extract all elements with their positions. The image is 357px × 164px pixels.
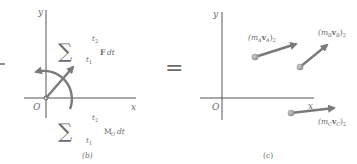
sigma-symbol-moment: ∑ <box>58 119 73 143</box>
impulse-momentum-diagram: y x O ∑ t 2 t 1 F dt ∑ t 2 t 1 M O dt (b… <box>0 0 357 164</box>
y-axis-label: y <box>212 9 219 19</box>
caption-b: (b) <box>82 151 93 160</box>
x-axis-label: x <box>131 102 136 112</box>
y-axis-label: y <box>37 7 44 17</box>
dt-label: dt <box>107 48 116 57</box>
origin-label: O <box>33 102 41 112</box>
momentum-arrow-b <box>300 45 327 67</box>
panel-c: y x O (mAvA)2 (mBvB)2 (mCvC)2 (c) <box>200 9 346 160</box>
upper-limit-sub: 2 <box>95 117 98 123</box>
upper-limit-sub: 2 <box>95 38 98 44</box>
origin-label: O <box>212 102 220 112</box>
momentum-label-c: (mCvC)2 <box>318 117 346 127</box>
equals-sign: = <box>165 55 183 80</box>
momentum-label-b: (mBvB)2 <box>318 28 346 38</box>
sigma-symbol-force: ∑ <box>58 39 73 63</box>
particle-b <box>297 64 304 71</box>
momentum-label-a: (mAvA)2 <box>248 33 276 43</box>
moment-subscript: O <box>111 131 115 137</box>
lower-limit-sub: 1 <box>89 140 92 146</box>
force-symbol: F <box>100 48 106 57</box>
caption-c: (c) <box>263 151 273 160</box>
panel-b: y x O ∑ t 2 t 1 F dt ∑ t 2 t 1 M O dt (b… <box>24 7 136 160</box>
particle-a <box>252 54 259 61</box>
particle-c <box>288 110 295 117</box>
momentum-arrow-a <box>255 44 296 57</box>
lower-limit-sub: 1 <box>89 59 92 65</box>
dt-label: dt <box>117 127 126 136</box>
